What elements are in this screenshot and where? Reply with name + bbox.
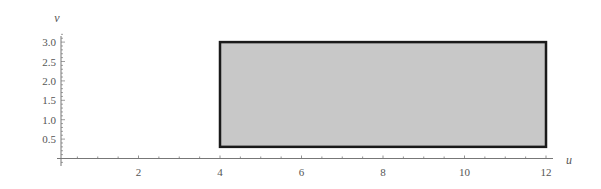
y-axis-ticks: 0.51.01.52.02.53.0 — [42, 34, 65, 162]
x-tick-label: 10 — [459, 166, 471, 178]
shaded-region — [220, 42, 546, 147]
y-tick-label: 1.5 — [42, 94, 56, 106]
y-axis-label: v — [54, 11, 60, 25]
y-tick-label: 2.5 — [42, 56, 56, 68]
y-tick-label: 1.0 — [42, 114, 56, 126]
x-tick-label: 2 — [136, 166, 142, 178]
x-tick-label: 6 — [299, 166, 305, 178]
x-tick-label: 8 — [380, 166, 386, 178]
y-tick-label: 3.0 — [42, 36, 56, 48]
x-tick-label: 4 — [217, 166, 223, 178]
x-axis-label: u — [566, 153, 572, 167]
x-tick-label: 12 — [541, 166, 552, 178]
plot: 0.51.01.52.02.53.0 24681012 u v — [0, 0, 601, 189]
y-tick-label: 2.0 — [42, 75, 56, 87]
y-tick-label: 0.5 — [42, 133, 56, 145]
